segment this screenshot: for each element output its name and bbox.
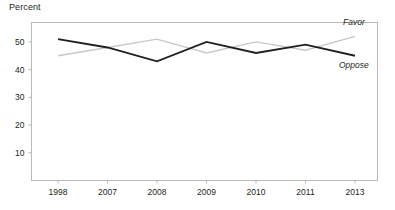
- x-tick-label: 2011: [296, 187, 315, 197]
- series-line-oppose: [58, 39, 355, 61]
- series-lines-group: [58, 36, 355, 61]
- x-tick-label: 2009: [197, 187, 216, 197]
- chart-figure: Percent 1020304050 199820072008200920102…: [0, 0, 395, 210]
- x-tick-label: 2013: [346, 187, 365, 197]
- x-axis-tick-labels: 1998200720082009201020112013: [49, 187, 365, 197]
- series-label-favor: Favor: [343, 17, 366, 27]
- x-tick-label: 2010: [247, 187, 266, 197]
- y-tick-label: 10: [15, 148, 25, 158]
- y-tick-label: 20: [15, 120, 25, 130]
- series-label-oppose: Oppose: [339, 60, 369, 70]
- x-tick-label: 2008: [148, 187, 167, 197]
- line-chart-plot: 1020304050 1998200720082009201020112013 …: [0, 0, 395, 210]
- x-tick-label: 1998: [49, 187, 68, 197]
- x-tick-label: 2007: [98, 187, 117, 197]
- plot-area-border: [32, 23, 378, 181]
- y-tick-label: 30: [15, 92, 25, 102]
- y-tick-label: 40: [15, 65, 25, 75]
- y-axis-tick-labels: 1020304050: [15, 37, 25, 158]
- y-tick-label: 50: [15, 37, 25, 47]
